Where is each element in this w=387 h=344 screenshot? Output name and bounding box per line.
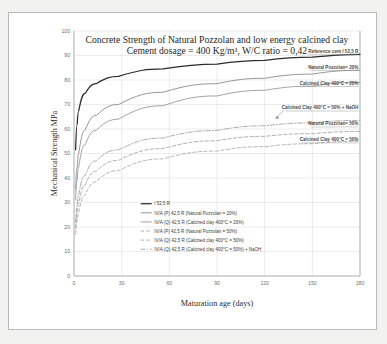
chart-svg: 01020304050607080901000306090120150180Co… — [48, 23, 368, 320]
y-tick-label: 70 — [64, 101, 70, 107]
chart-subtitle: Cement dosage = 400 Kg/m³, W/C ratio = 0… — [127, 45, 308, 56]
x-tick-label: 150 — [308, 280, 317, 286]
y-tick-label: 90 — [64, 52, 70, 58]
curve-annotation-6: Calcined Clay 400°C = 50% — [300, 137, 359, 142]
y-tick-label: 20 — [64, 224, 70, 230]
curve-annotation-5: Natural Pozzolan= 50% — [308, 121, 358, 126]
legend-label-3: IV/A (Q) 42,5 R (Calcined clay 400°C = 2… — [154, 220, 244, 225]
curve-annotation-2: Natural Pozzolan= 20% — [308, 65, 358, 70]
y-tick-label: 40 — [64, 175, 70, 181]
x-tick-label: 60 — [166, 280, 172, 286]
x-tick-label: 90 — [214, 280, 220, 286]
legend-label-5: IV/A (Q) 42,5 R (Calcined clay 400°C = 5… — [154, 238, 244, 243]
legend-label-1: I 52,5 R — [154, 201, 171, 206]
y-tick-label: 10 — [64, 248, 70, 254]
annotation-arrow-head — [276, 116, 279, 119]
legend-label-6: IV/A (Q) 42,5 R (Calcined clay 400°C = 5… — [154, 247, 261, 252]
page-background: 01020304050607080901000306090120150180Co… — [0, 0, 387, 344]
curve-annotation-4: Calcined Clay 400°C = 50% + NaOH — [282, 105, 359, 110]
figure-card: 01020304050607080901000306090120150180Co… — [8, 12, 377, 330]
curve-annotation-1: Reference cem I 52,5 R — [308, 49, 359, 54]
y-tick-label: 0 — [67, 273, 70, 279]
y-axis-title: Mechanical Strength MPa — [50, 110, 59, 196]
series-line-2 — [76, 70, 360, 189]
y-tick-label: 80 — [64, 77, 70, 83]
curve-annotation-3: Calcined Clay 400°C = 20% — [300, 81, 359, 86]
y-tick-label: 100 — [62, 28, 71, 34]
x-axis-title: Maturation age (days) — [181, 299, 254, 308]
x-tick-label: 0 — [73, 280, 76, 286]
y-tick-label: 60 — [64, 126, 70, 132]
y-tick-label: 30 — [64, 199, 70, 205]
legend-label-4: IV/A (P) 42,5 R (Natural Pozzolan = 50%) — [154, 229, 237, 234]
x-tick-label: 30 — [119, 280, 125, 286]
legend-label-2: IV/A (P) 42,5 R (Natural Pozzolan = 20%) — [154, 211, 237, 216]
x-tick-label: 180 — [356, 280, 365, 286]
y-tick-label: 50 — [64, 150, 70, 156]
x-tick-label: 120 — [260, 280, 269, 286]
chart-title: Concrete Strength of Natural Pozzolan an… — [86, 34, 349, 45]
chart-figure: 01020304050607080901000306090120150180Co… — [48, 23, 368, 320]
series-line-4 — [76, 120, 360, 222]
